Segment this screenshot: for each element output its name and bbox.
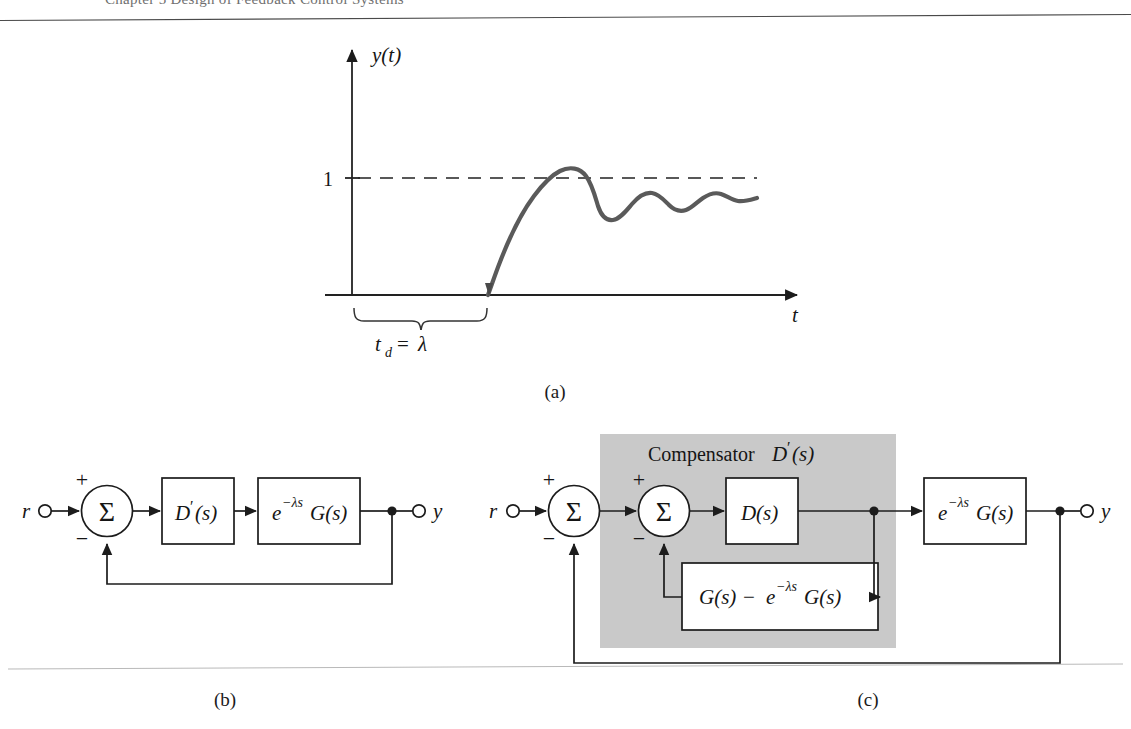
panel-c-outer-sum-minus: − [543, 526, 555, 551]
delay-equals: = [397, 332, 409, 356]
panel-b-input-terminal[interactable] [39, 505, 51, 517]
panel-b-output-terminal[interactable] [413, 505, 425, 517]
panel-b-plant-exp-sup: −λs [282, 495, 304, 510]
panel-c-compensator-word: Compensator [648, 443, 755, 466]
delay-brace [354, 308, 487, 330]
panel-b-sum-plus: + [76, 467, 88, 492]
panel-c-predictor-second: G(s) [804, 585, 841, 609]
panel-b-input-label: r [22, 499, 31, 523]
panel-c-plant-gs: G(s) [976, 501, 1013, 525]
panel-c-plant-exp-sup: −λs [948, 495, 970, 510]
panel-c-output-label: y [1099, 499, 1111, 523]
delay-symbol-t: t [375, 332, 382, 356]
step-response-curve [488, 168, 757, 295]
panel-b-compensator-base: D [174, 501, 190, 525]
panel-c-compensator-arg: (s) [792, 442, 814, 466]
panel-b-compensator-arg: (s) [195, 501, 217, 525]
panel-b-sum-minus: − [76, 526, 88, 551]
y-axis-label: y(t) [370, 43, 401, 67]
panel-b-plant-exp-base: e [272, 501, 281, 525]
panel-b-compensator-prime: ′ [189, 498, 193, 515]
delay-brace-label: t d = λ [375, 332, 427, 360]
panel-c-inner-sum-minus: − [633, 526, 645, 551]
y-tick-one-label: 1 [323, 168, 333, 190]
panel-c-outer-sum-symbol: Σ [566, 496, 582, 527]
panel-c-block-inner-controller-label: D (s) [740, 501, 778, 525]
panel-a-step-response: y(t) t 1 t d = λ (a) [323, 43, 799, 403]
figure-root: y(t) t 1 t d = λ (a) r [0, 0, 1131, 729]
panel-c-output-terminal[interactable] [1081, 505, 1093, 517]
panel-c-compensator-base: D [771, 442, 787, 466]
panel-c-compensator-prime: ′ [786, 439, 790, 456]
panel-b-block-compensator-label: D ′ (s) [174, 498, 217, 525]
panel-c-outer-sum-plus: + [543, 467, 555, 492]
delay-subscript-d: d [385, 345, 393, 360]
panel-b-output-label: y [431, 499, 443, 523]
page-bottom-rule [8, 664, 1123, 669]
caption-a: (a) [544, 381, 565, 403]
page-top-rule [0, 15, 1131, 21]
panel-c-block-diagram: Compensator D ′ (s) r Σ + − Σ + − D (s) [489, 434, 1111, 711]
panel-c-inner-controller-base: D [740, 501, 756, 525]
caption-b: (b) [214, 689, 236, 711]
x-axis-label: t [792, 303, 799, 327]
panel-c-predictor-minus: − [743, 585, 755, 609]
panel-b-block-diagram: r Σ + − D ′ (s) e −λs G(s) [22, 467, 443, 711]
panel-c-plant-exp-base: e [938, 501, 947, 525]
panel-b-sum-symbol: Σ [99, 496, 115, 527]
panel-c-input-label: r [489, 499, 498, 523]
panel-c-input-terminal[interactable] [507, 505, 519, 517]
caption-c: (c) [857, 689, 878, 711]
panel-c-predictor-exp-base: e [766, 585, 775, 609]
panel-c-inner-sum-plus: + [633, 467, 645, 492]
panel-c-predictor-exp-sup: −λs [776, 579, 798, 594]
panel-c-predictor-first: G(s) [699, 585, 736, 609]
panel-c-inner-controller-arg: (s) [756, 501, 778, 525]
panel-c-inner-sum-symbol: Σ [656, 496, 672, 527]
delay-lambda: λ [417, 332, 427, 356]
panel-b-plant-gs: G(s) [310, 501, 347, 525]
